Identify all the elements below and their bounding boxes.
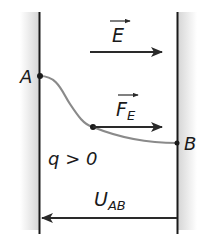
point-a [37,73,43,79]
point-b [175,141,180,146]
charge-trajectory [40,76,177,143]
voltage-label: UAB [94,188,126,213]
field-label: E [112,24,124,46]
point-a-label: A [19,66,32,87]
electric-field-diagram: E A B FE q > 0 UAB [0,0,202,242]
charge-condition-label: q > 0 [48,148,97,169]
point-b-label: B [184,133,196,154]
left-plate-shade [20,12,39,230]
right-plate-shade [178,12,197,230]
force-label: FE [116,98,136,123]
